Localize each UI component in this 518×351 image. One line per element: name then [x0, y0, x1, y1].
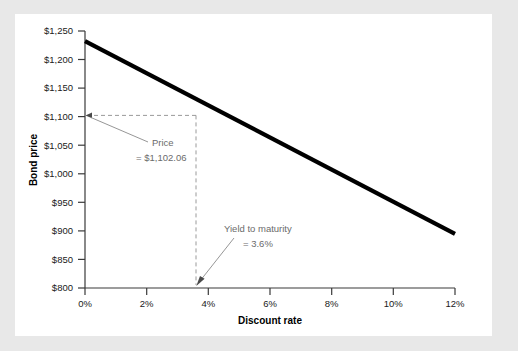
y-tick-label: $1,100 [44, 111, 73, 122]
x-tick-label: 4% [201, 298, 215, 309]
price-annotation-label-line2: = $1,102.06 [136, 152, 186, 163]
x-tick-label: 2% [140, 298, 154, 309]
ytm-annotation-label-line2: = 3.6% [243, 238, 273, 249]
x-tick-label: 8% [325, 298, 339, 309]
y-tick-label: $1,050 [44, 140, 73, 151]
x-tick-label: 10% [384, 298, 404, 309]
x-axis-title: Discount rate [238, 315, 302, 326]
y-axis-title: Bond price [28, 133, 39, 186]
y-tick-label: $1,150 [44, 82, 73, 93]
figure-card: $800 $850 $900 $950 $1,000 $1,050 $1,100… [15, 14, 492, 336]
bond-price-chart: $800 $850 $900 $950 $1,000 $1,050 $1,100… [15, 14, 492, 336]
y-tick-label: $1,250 [44, 25, 73, 36]
x-tick-label: 12% [445, 298, 465, 309]
y-tick-label: $850 [52, 254, 73, 265]
y-tick-label: $1,000 [44, 168, 73, 179]
price-annotation-label-line1: Price [152, 137, 174, 148]
y-tick-label: $950 [52, 197, 73, 208]
y-tick-label: $1,200 [44, 54, 73, 65]
y-tick-label: $800 [52, 282, 73, 293]
y-tick-label: $900 [52, 225, 73, 236]
x-tick-label: 0% [78, 298, 92, 309]
ytm-annotation-label-line1: Yield to maturity [224, 223, 292, 234]
x-tick-label: 6% [263, 298, 277, 309]
